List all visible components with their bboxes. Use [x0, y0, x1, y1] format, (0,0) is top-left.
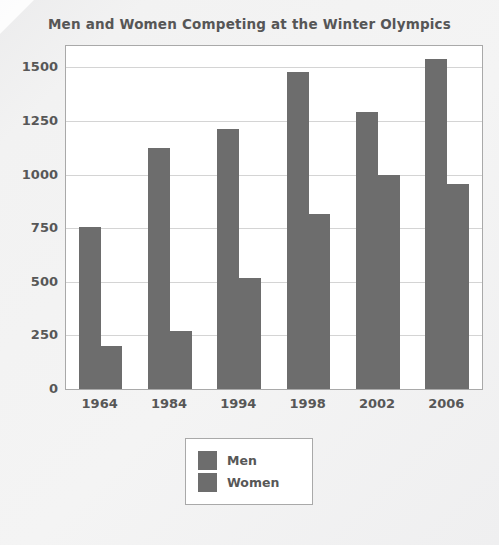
bar-women-2002	[378, 175, 400, 389]
chart-title: Men and Women Competing at the Winter Ol…	[0, 16, 499, 32]
y-axis-tick-label: 1250	[0, 113, 58, 128]
y-axis-tick-label: 1000	[0, 166, 58, 181]
y-axis-tick-label: 750	[0, 220, 58, 235]
x-axis-tick-label: 1998	[290, 396, 326, 411]
x-axis-tick-label: 1984	[151, 396, 187, 411]
gridline-y	[66, 335, 482, 336]
chart-legend: MenWomen	[185, 438, 313, 505]
gridline-y	[66, 175, 482, 176]
gridline-y	[66, 282, 482, 283]
bar-men-1998	[287, 72, 309, 389]
bar-men-1964	[79, 227, 101, 389]
x-axis-tick-label: 1964	[82, 396, 118, 411]
y-axis-tick-label: 500	[0, 273, 58, 288]
bar-men-1994	[217, 129, 239, 389]
gridline-y	[66, 67, 482, 68]
bar-women-2006	[447, 184, 469, 389]
page-background: Men and Women Competing at the Winter Ol…	[0, 0, 499, 545]
legend-label: Women	[227, 475, 279, 490]
y-axis-tick-label: 0	[0, 381, 58, 396]
legend-item-men: Men	[198, 451, 300, 470]
bar-men-2002	[356, 112, 378, 389]
x-axis-tick-label: 2002	[359, 396, 395, 411]
legend-swatch-icon	[198, 473, 217, 492]
y-axis-tick-label: 250	[0, 327, 58, 342]
bar-women-1998	[309, 214, 331, 389]
gridline-y	[66, 121, 482, 122]
bar-women-1984	[170, 331, 192, 389]
legend-swatch-icon	[198, 451, 217, 470]
bar-men-2006	[425, 59, 447, 389]
legend-label: Men	[227, 453, 257, 468]
legend-item-women: Women	[198, 473, 300, 492]
bar-men-1984	[148, 148, 170, 389]
x-axis-tick-label: 2006	[428, 396, 464, 411]
y-axis-tick-label: 1500	[0, 59, 58, 74]
gridline-y	[66, 228, 482, 229]
plot-area	[65, 45, 483, 390]
bar-women-1994	[239, 278, 261, 389]
x-axis-tick-label: 1994	[220, 396, 256, 411]
plot-inner	[66, 46, 482, 389]
bar-women-1964	[101, 346, 123, 389]
